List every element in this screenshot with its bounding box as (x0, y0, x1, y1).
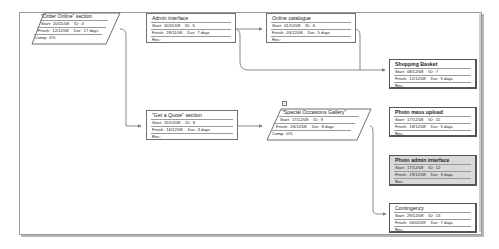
finish-label: Finish: (152, 30, 164, 36)
finish-value: 28/11/08 (166, 30, 182, 36)
start-label: Start: (272, 23, 282, 29)
finish-value: 18/12/08 (409, 124, 425, 130)
id-label: ID: (305, 23, 310, 29)
comp-value: 0% (286, 131, 292, 137)
task-node-get-a-quote[interactable]: "Get a Quote" section Start:15/12/08ID:8… (146, 110, 238, 140)
finish-value: 19/12/08 (409, 172, 425, 178)
finish-label: Finish: (395, 124, 407, 130)
id-label: ID: (313, 117, 318, 123)
dur-label: Dur: (74, 28, 82, 34)
task-title: Shopping Basket (390, 60, 475, 68)
dur-value: 5 days (318, 30, 330, 36)
finish-label: Finish: (272, 30, 284, 36)
start-value: 01/12/08 (284, 23, 300, 29)
dur-label: Dur: (188, 127, 196, 133)
dur-value: 5 days (441, 124, 453, 130)
id-value: 13 (436, 213, 441, 219)
finish-value: 05/12/08 (286, 30, 302, 36)
finish-label: Finish: (395, 76, 407, 82)
id-label: ID: (185, 120, 190, 126)
start-label: Start: (395, 117, 405, 123)
dur-label: Dur: (431, 220, 439, 226)
id-value: 8 (193, 120, 195, 126)
finish-value: 06/01/09 (409, 220, 425, 226)
finish-value: 12/12/08 (52, 28, 68, 34)
start-value: 17/12/08 (407, 165, 423, 171)
finish-label: Finish: (395, 172, 407, 178)
comp-label: Comp: (272, 131, 284, 137)
start-label: Start: (395, 165, 405, 171)
dur-label: Dur: (431, 76, 439, 82)
task-title: "Order Online" section (30, 12, 122, 20)
dur-value: 3 days (198, 127, 210, 133)
id-label: ID: (74, 21, 79, 27)
finish-label: Finish: (395, 220, 407, 226)
start-value: 17/12/08 (407, 117, 423, 123)
res-label: Res: (152, 134, 161, 140)
dur-value: 7 days (197, 30, 209, 36)
finish-label: Finish: (152, 127, 164, 133)
task-node-photo-admin-interface[interactable]: Photo admin interface Start:17/12/08ID:1… (389, 155, 477, 186)
dur-value: 8 days (322, 124, 334, 130)
finish-label: Finish: (276, 124, 288, 130)
task-title: Photo mass upload (390, 108, 475, 116)
finish-value: 12/12/08 (409, 76, 425, 82)
id-label: ID: (428, 213, 433, 219)
dur-value: 3 days (441, 172, 453, 178)
dur-value: 17 days (84, 28, 99, 34)
task-node-order-online[interactable]: "Order Online" section Start:20/11/08ID:… (30, 12, 122, 45)
start-value: 08/12/08 (407, 69, 423, 75)
task-title: Photo admin interface (390, 156, 475, 164)
dur-label: Dur: (431, 124, 439, 130)
id-value: 5 (192, 23, 194, 29)
id-label: ID: (185, 23, 190, 29)
start-label: Start: (152, 120, 162, 126)
id-value: 4 (81, 21, 83, 27)
dur-value: 5 days (441, 76, 453, 82)
comp-label: Comp: (35, 35, 47, 41)
res-label: Res: (395, 179, 404, 185)
task-node-online-catalogue[interactable]: Online catalogue Start:01/12/08ID:6 Fini… (266, 13, 356, 43)
collapse-toggle-icon[interactable]: − (282, 101, 287, 106)
start-label: Start: (395, 213, 405, 219)
id-label: ID: (428, 117, 433, 123)
res-label: Res: (395, 227, 404, 233)
dur-value: 7 days (441, 220, 453, 226)
start-value: 20/11/08 (164, 23, 180, 29)
start-value: 15/12/08 (164, 120, 180, 126)
res-label: Res: (152, 37, 161, 43)
comp-value: 0% (49, 35, 55, 41)
dur-label: Dur: (312, 124, 320, 130)
finish-value: 16/12/08 (166, 127, 182, 133)
finish-value: 26/12/08 (290, 124, 306, 130)
task-node-special-occasions[interactable]: "Special Occasions Gallery" Start:17/12/… (265, 108, 373, 141)
id-value: 12 (436, 165, 441, 171)
start-label: Start: (395, 69, 405, 75)
id-value: 9 (321, 117, 323, 123)
task-title: Online catalogue (267, 14, 355, 22)
id-value: 6 (313, 23, 315, 29)
res-label: Res: (272, 37, 281, 43)
id-label: ID: (428, 69, 433, 75)
task-node-contingency[interactable]: Contingency Start:29/12/08ID:13 Finish:0… (389, 203, 477, 233)
task-title: "Special Occasions Gallery" (265, 108, 373, 116)
start-value: 17/12/08 (292, 117, 308, 123)
start-label: Start: (41, 21, 51, 27)
start-value: 29/12/08 (407, 213, 423, 219)
task-node-admin-interface[interactable]: Admin interface Start:20/11/08ID:5 Finis… (146, 13, 236, 43)
dur-label: Dur: (187, 30, 195, 36)
finish-label: Finish: (38, 28, 50, 34)
task-node-shopping-basket[interactable]: Shopping Basket Start:08/12/08ID:7 Finis… (389, 59, 477, 89)
task-node-photo-mass-upload[interactable]: Photo mass upload Start:17/12/08ID:11 Fi… (389, 107, 477, 137)
task-title: Admin interface (147, 14, 235, 22)
id-value: 7 (436, 69, 438, 75)
start-label: Start: (152, 23, 162, 29)
res-label: Res: (395, 131, 404, 137)
task-title: Contingency (390, 204, 475, 212)
start-label: Start: (280, 117, 290, 123)
id-value: 11 (436, 117, 440, 123)
task-title: "Get a Quote" section (147, 111, 237, 119)
id-label: ID: (428, 165, 433, 171)
res-label: Res: (395, 83, 404, 89)
dur-label: Dur: (431, 172, 439, 178)
